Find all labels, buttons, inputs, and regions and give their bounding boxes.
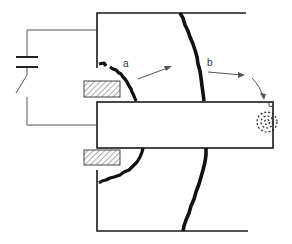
label-b: b bbox=[207, 58, 213, 68]
label-c: c bbox=[268, 99, 273, 109]
chamber-bottom-wall bbox=[97, 170, 248, 231]
discharge-diagram bbox=[0, 0, 292, 244]
label-a: a bbox=[123, 59, 129, 69]
lower-wire bbox=[27, 97, 97, 125]
insulator-lower bbox=[84, 150, 120, 165]
switch-icon bbox=[16, 75, 27, 93]
circuit bbox=[27, 30, 97, 125]
insulator-upper bbox=[84, 81, 120, 97]
arrow-b bbox=[208, 72, 242, 75]
upper-wire bbox=[27, 30, 97, 57]
chamber-top-wall bbox=[97, 13, 246, 68]
capacitor-icon bbox=[16, 57, 38, 67]
central-electrode bbox=[97, 102, 273, 148]
